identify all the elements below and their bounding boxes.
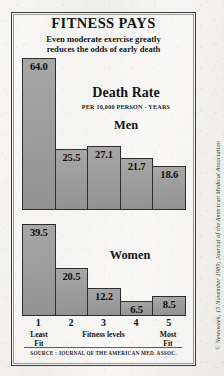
women-bar-chart: 39.520.512.26.58.5 [22,224,185,316]
bar-5: 18.6 [152,166,186,210]
bar-value-label: 8.5 [153,299,185,310]
bar-4: 6.5 [120,301,154,316]
axis-number-5: 5 [152,317,185,328]
axis-number-2: 2 [55,317,88,328]
page-subtitle: Even moderate exercise greatly reduces t… [11,34,196,54]
bar-3: 12.2 [87,288,121,316]
bar-2: 20.5 [55,268,89,316]
page-title: FITNESS PAYS [11,16,196,31]
men-bar-chart: 64.025.527.121.718.6 [22,58,185,210]
copyright-credit: © Newsweek, 15 November 1989; Journal of… [201,0,223,376]
bar-value-label: 20.5 [56,271,88,282]
bar-2: 25.5 [55,149,89,210]
women-baseline [22,315,185,316]
bar-value-label: 6.5 [121,304,153,315]
source-divider [24,347,182,348]
bar-value-label: 25.5 [56,152,88,163]
axis-number-row: 12345 [22,317,185,330]
copyright-credit-text: © Newsweek, 15 November 1989; Journal of… [214,141,221,350]
least-fit-line-1: Least [30,330,48,339]
source-note: SOURCE : JOURNAL OF THE AMERICAN MED. AS… [16,350,191,356]
bar-value-label: 39.5 [23,227,55,238]
men-plot-area: 64.025.527.121.718.6 [22,58,185,210]
subtitle-line-1: Even moderate exercise greatly [46,34,160,44]
most-fit-line-1: Most [160,330,176,339]
bar-1: 39.5 [22,224,56,316]
bar-1: 64.0 [22,58,56,210]
axis-number-1: 1 [22,317,55,328]
bar-value-label: 27.1 [88,149,120,160]
men-baseline [22,209,185,210]
bar-value-label: 12.2 [88,291,120,302]
bar-5: 8.5 [152,296,186,316]
bar-4: 21.7 [120,158,154,210]
bar-value-label: 21.7 [121,161,153,172]
headline-block: FITNESS PAYS Even moderate exercise grea… [11,16,196,55]
axis-caption-fitness-levels: Fitness levels [56,331,151,340]
women-plot-area: 39.520.512.26.58.5 [22,224,185,316]
bar-value-label: 18.6 [153,169,185,180]
axis-number-4: 4 [120,317,153,328]
bar-3: 27.1 [87,146,121,210]
bar-value-label: 64.0 [23,61,55,72]
axis-number-3: 3 [87,317,120,328]
subtitle-line-2: reduces the odds of early death [47,44,161,54]
